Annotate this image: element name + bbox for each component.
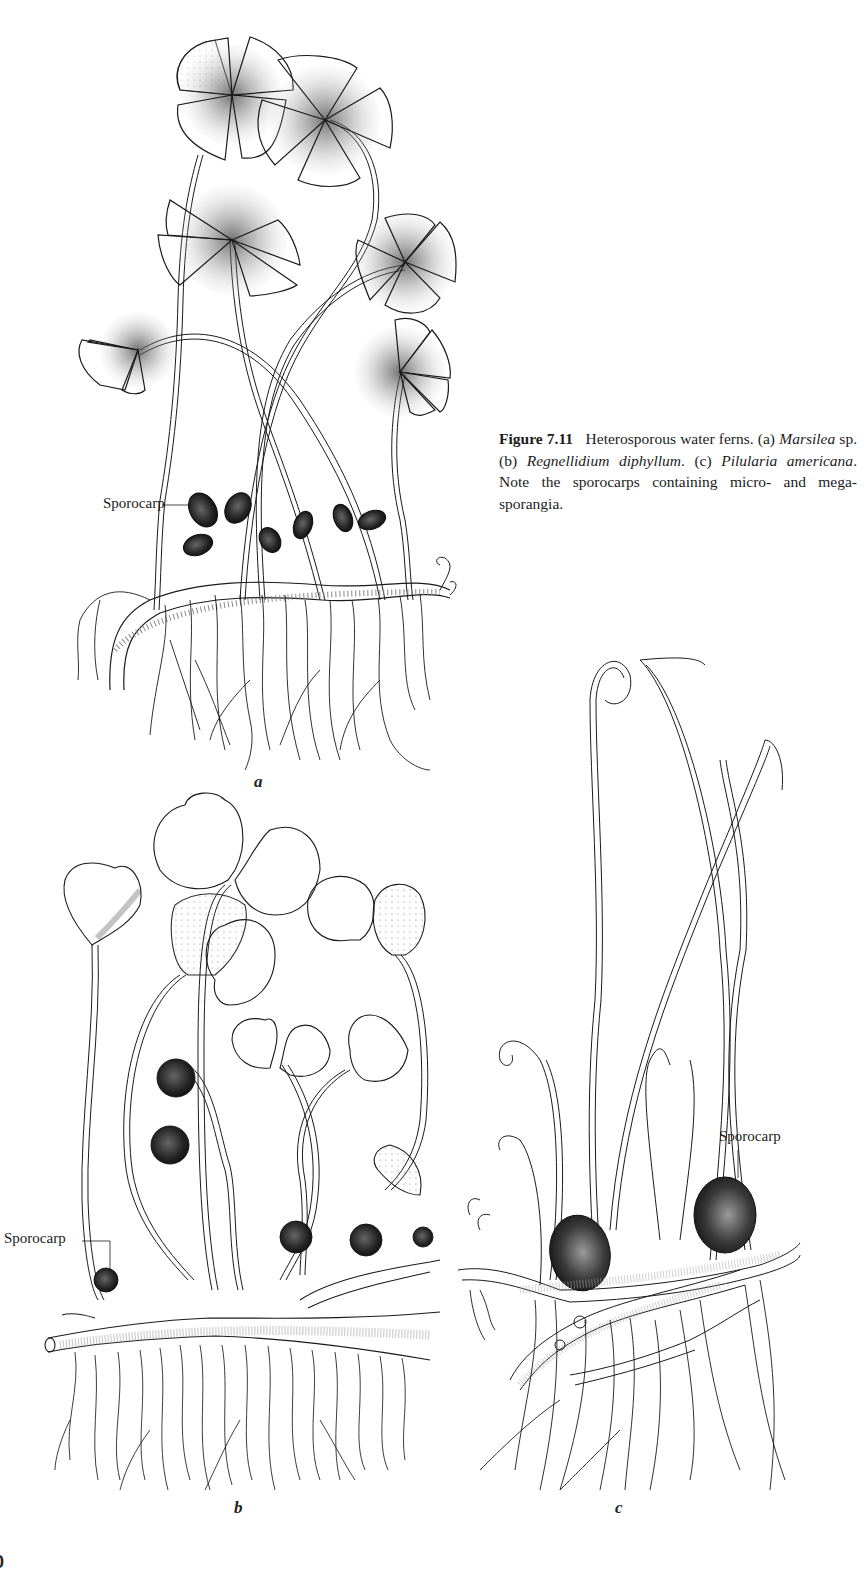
roots-b [55,1345,405,1490]
leaf-cluster-6 [79,312,176,394]
sporocarps-c [544,1177,756,1296]
roots-a [78,592,430,770]
caption-c-species: Pilularia americana [721,452,853,469]
leaf-cluster-2 [258,56,392,187]
panel-c-pilularia [458,658,800,1490]
leaf-cluster-5 [355,318,450,417]
caption-b-marker: (b) [499,452,517,469]
panel-letter-b: b [234,1498,243,1518]
caption-b-species: Regnellidium diphyl­lum [527,452,681,469]
sporocarp-label-c: Sporocarp [719,1128,781,1145]
caption-a-genus: Marsilea [779,430,835,447]
sporocarp-label-a: Sporocarp [103,495,165,512]
caption-a-suffix: sp. [835,430,857,447]
panel-b-regnellidium [45,793,440,1490]
leaves-b [64,793,425,1195]
caption-note: Note the sporocarps containing micro- an… [499,473,857,512]
rhizome-a [110,557,456,690]
figure-illustration [0,0,867,1579]
panel-a-marsilea [78,37,456,770]
roots-c [470,1280,785,1490]
caption-title: Heterosporous water ferns. [586,430,754,447]
sporocarps-a [180,488,388,560]
figure-caption: Figure 7.11 Heterosporous water ferns. (… [499,428,857,514]
sporocarp-label-b: Sporocarp [4,1230,66,1247]
page-number: 0 [0,1552,4,1573]
caption-c-marker: (c) [694,452,711,469]
sporocarps-b [94,1059,433,1292]
panel-letter-a: a [254,772,263,792]
caption-a-marker: (a) [758,430,775,447]
rhizome-c [458,1243,800,1390]
panel-letter-c: c [615,1498,623,1518]
leaf-cluster-4 [355,212,456,313]
figure-number: Figure 7.11 [499,430,573,447]
